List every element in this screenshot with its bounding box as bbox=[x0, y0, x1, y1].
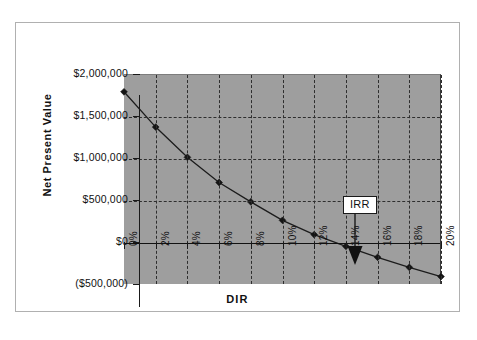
vertical-gridline bbox=[283, 75, 284, 284]
x-axis-tick bbox=[219, 242, 220, 249]
y-axis-tick bbox=[133, 200, 140, 201]
x-axis-tick-label: 2% bbox=[160, 231, 171, 246]
vertical-gridline bbox=[441, 75, 442, 284]
clipped-text-sliver bbox=[48, 0, 168, 2]
x-axis-tick bbox=[441, 242, 442, 249]
x-axis-tick-label: 18% bbox=[413, 225, 424, 246]
x-axis-tick bbox=[156, 242, 157, 249]
plot-area bbox=[124, 74, 441, 284]
x-axis-title: DIR bbox=[16, 293, 459, 305]
x-axis-tick bbox=[283, 242, 284, 249]
irr-annotation-arrow-icon bbox=[343, 213, 383, 269]
x-axis-tick bbox=[187, 242, 188, 249]
x-axis-tick-label: 10% bbox=[287, 225, 298, 246]
x-axis-tick-label: 4% bbox=[191, 231, 202, 246]
y-axis-title: Net Present Value bbox=[41, 70, 53, 220]
x-axis-tick-label: 16% bbox=[382, 225, 393, 246]
x-axis-tick-label: 6% bbox=[223, 231, 234, 246]
y-axis-tick bbox=[133, 74, 140, 75]
y-axis-tick-label: $500,000 bbox=[16, 193, 128, 205]
vertical-gridline bbox=[251, 75, 252, 284]
y-axis-tick bbox=[133, 116, 140, 117]
y-axis-tick bbox=[133, 284, 140, 285]
vertical-gridline bbox=[156, 75, 157, 284]
x-axis-tick bbox=[251, 242, 252, 249]
y-axis-tick bbox=[133, 158, 140, 159]
irr-annotation-label: IRR bbox=[343, 196, 377, 214]
x-axis-tick bbox=[314, 242, 315, 249]
chart-frame: $2,000,000$1,500,000$1,000,000$500,000$0… bbox=[15, 22, 460, 312]
x-axis-tick bbox=[409, 242, 410, 249]
vertical-gridline bbox=[314, 75, 315, 284]
vertical-gridline bbox=[187, 75, 188, 284]
y-axis-line bbox=[139, 95, 140, 307]
vertical-gridline bbox=[219, 75, 220, 284]
x-axis-tick-label: 12% bbox=[318, 225, 329, 246]
x-axis-tick-label: 8% bbox=[255, 231, 266, 246]
y-axis-tick-label: $2,000,000 bbox=[16, 67, 128, 79]
x-axis-tick-label: 0% bbox=[128, 231, 139, 246]
y-axis-tick-label: $1,000,000 bbox=[16, 151, 128, 163]
y-axis-tick-label: ($500,000) bbox=[16, 277, 128, 289]
vertical-gridline bbox=[409, 75, 410, 284]
x-axis-tick-label: 20% bbox=[445, 225, 456, 246]
y-axis-tick-label: $0 bbox=[16, 235, 128, 247]
y-axis-tick-label: $1,500,000 bbox=[16, 109, 128, 121]
x-axis-tick bbox=[124, 242, 125, 249]
